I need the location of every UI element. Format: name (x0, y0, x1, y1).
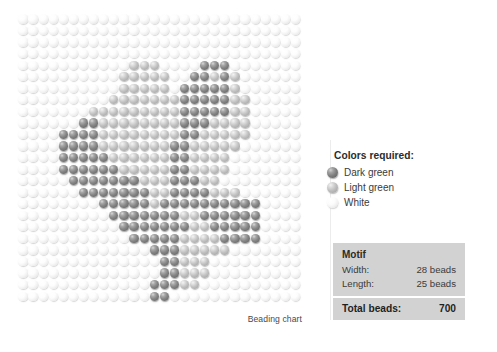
bead-dot-icon (281, 72, 290, 81)
bead-dot-icon (69, 84, 78, 93)
bead-dark-green (180, 153, 190, 165)
bead-white (79, 233, 89, 245)
bead-white (291, 245, 301, 257)
bead-white (260, 245, 270, 257)
bead-light-green (109, 129, 119, 141)
bead-white (240, 187, 250, 199)
bead-white (28, 222, 38, 234)
bead-white (250, 129, 260, 141)
bead-light-green (129, 141, 139, 153)
bead-dot-icon (210, 107, 219, 116)
bead-dot-icon (89, 72, 98, 81)
bead-dark-green (180, 222, 190, 234)
bead-dot-icon (291, 268, 300, 277)
bead-dot-icon (49, 153, 58, 162)
bead-white (220, 280, 230, 292)
bead-dark-green (190, 176, 200, 188)
bead-dot-icon (281, 95, 290, 104)
bead-dot-icon (28, 188, 37, 197)
bead-dot-icon (240, 211, 249, 220)
bead-dot-icon (170, 292, 179, 301)
bead-dot-icon (210, 118, 219, 127)
bead-white (68, 37, 78, 49)
bead-dot-icon (129, 118, 138, 127)
bead-light-green (190, 245, 200, 257)
bead-white (270, 176, 280, 188)
bead-dot-icon (28, 211, 37, 220)
bead-dot-icon (200, 49, 209, 58)
bead-dot-icon (180, 26, 189, 35)
bead-dot-icon (59, 268, 68, 277)
bead-dark-green (169, 222, 179, 234)
bead-white (210, 37, 220, 49)
bead-dot-icon (49, 61, 58, 70)
bead-dot-icon (170, 245, 179, 254)
bead-white (230, 49, 240, 61)
bead-white (270, 60, 280, 72)
bead-dot-icon (109, 26, 118, 35)
bead-dark-green (210, 210, 220, 222)
bead-dot-icon (59, 245, 68, 254)
bead-dot-icon (99, 118, 108, 127)
bead-dot-icon (99, 280, 108, 289)
bead-white (220, 176, 230, 188)
bead-dot-icon (140, 245, 149, 254)
bead-dot-icon (150, 37, 159, 46)
bead-dot-icon (170, 280, 179, 289)
bead-dot-icon (281, 257, 290, 266)
bead-dot-icon (230, 130, 239, 139)
bead-white (48, 95, 58, 107)
bead-dot-icon (240, 234, 249, 243)
bead-white (240, 291, 250, 303)
bead-white (250, 72, 260, 84)
bead-white (18, 129, 28, 141)
bead-white (280, 176, 290, 188)
bead-dot-icon (129, 14, 138, 23)
bead-white (230, 291, 240, 303)
bead-white (48, 291, 58, 303)
bead-dot-icon (170, 95, 179, 104)
bead-dot-icon (140, 176, 149, 185)
legend-item-dark-green: Dark green (334, 165, 484, 180)
bead-dot-icon (79, 234, 88, 243)
bead-white (260, 187, 270, 199)
bead-white (250, 141, 260, 153)
bead-dot-icon (99, 95, 108, 104)
bead-white (89, 268, 99, 280)
bead-dot-icon (59, 95, 68, 104)
bead-light-green (119, 141, 129, 153)
bead-white (28, 199, 38, 211)
bead-dot-icon (39, 61, 48, 70)
bead-dark-green (139, 222, 149, 234)
bead-dark-green (109, 164, 119, 176)
bead-white (240, 280, 250, 292)
bead-dot-icon (99, 268, 108, 277)
bead-white (48, 106, 58, 118)
bead-white (38, 256, 48, 268)
bead-light-green (149, 199, 159, 211)
bead-dot-icon (180, 165, 189, 174)
bead-dot-icon (170, 165, 179, 174)
bead-dot-icon (99, 176, 108, 185)
bead-dot-icon (59, 280, 68, 289)
bead-white (38, 245, 48, 257)
bead-dot-icon (210, 84, 219, 93)
bead-dark-green (149, 280, 159, 292)
bead-dot-icon (291, 107, 300, 116)
bead-dot-icon (69, 234, 78, 243)
bead-white (291, 268, 301, 280)
bead-white (58, 106, 68, 118)
bead-white (28, 245, 38, 257)
bead-dot-icon (200, 292, 209, 301)
bead-white (89, 199, 99, 211)
bead-dot-icon (69, 188, 78, 197)
bead-white (89, 95, 99, 107)
bead-dot-icon (230, 211, 239, 220)
bead-light-green (119, 72, 129, 84)
bead-white (291, 60, 301, 72)
bead-dot-icon (281, 153, 290, 162)
bead-dot-icon (79, 199, 88, 208)
bead-dot-icon (210, 211, 219, 220)
bead-dot-icon (79, 211, 88, 220)
bead-swatch-white-icon (327, 197, 338, 208)
